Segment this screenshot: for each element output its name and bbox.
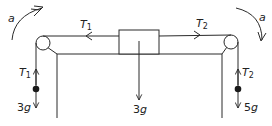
weight-label-left: 3g <box>17 101 31 114</box>
accel-label-right: a <box>259 11 266 24</box>
tension-label-hang-right: T2 <box>242 66 254 80</box>
string-right <box>159 35 231 36</box>
right-pulley <box>224 35 238 49</box>
right-pulley-bracket <box>222 47 227 54</box>
pulley-diagram: a a T1 T2 T1 T2 3g 3g 5g <box>0 0 272 126</box>
tension-label-top-right: T2 <box>196 17 208 31</box>
weight-label-center: 3g <box>133 103 147 116</box>
tension-label-top-left: T1 <box>80 18 92 32</box>
tension-label-hang-left: T1 <box>19 66 31 80</box>
diagram-canvas: a a T1 T2 T1 T2 3g 3g 5g <box>0 0 272 126</box>
accel-label-left: a <box>8 12 15 25</box>
weight-label-right: 5g <box>244 101 258 114</box>
left-hanging-mass <box>33 86 40 93</box>
right-hanging-mass <box>235 86 242 93</box>
left-pulley <box>36 36 50 50</box>
